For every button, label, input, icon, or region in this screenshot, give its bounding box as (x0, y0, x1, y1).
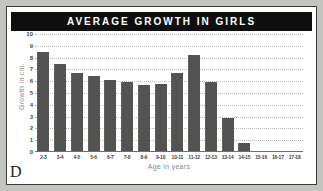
x-tick-label: 5-6 (85, 154, 102, 160)
bar-slot (69, 34, 86, 152)
page-title: AVERAGE GROWTH IN GIRLS (67, 16, 256, 27)
y-axis-ticks: 109876543210 (19, 34, 33, 152)
bar (88, 76, 100, 152)
x-tick-label: 9-10 (152, 154, 169, 160)
figure-panel: AVERAGE GROWTH IN GIRLS Growth in cm. 10… (0, 0, 323, 191)
bar-slot (236, 34, 253, 152)
bar (188, 55, 200, 152)
bar (171, 73, 183, 152)
y-tick-label: 9 (30, 43, 33, 49)
y-tick-label: 10 (26, 31, 33, 37)
bar (138, 85, 150, 152)
x-tick-label: 10-11 (169, 154, 186, 160)
y-tick-label: 1 (30, 137, 33, 143)
bar-slot (102, 34, 119, 152)
bar-slot (219, 34, 236, 152)
bar (121, 82, 133, 152)
bar-slot (203, 34, 220, 152)
bar (37, 52, 49, 152)
bar-slot (85, 34, 102, 152)
bar (104, 80, 116, 152)
bar-slot (52, 34, 69, 152)
x-tick-label: 13-14 (219, 154, 236, 160)
y-tick-label: 7 (30, 66, 33, 72)
x-tick-label: 11-12 (186, 154, 203, 160)
x-axis-ticks: 2-33-44-55-66-77-88-99-1010-1111-1212-13… (35, 154, 303, 160)
bar-slot (286, 34, 303, 152)
chart-title-banner: AVERAGE GROWTH IN GIRLS (11, 12, 312, 31)
x-tick-label: 17-18 (286, 154, 303, 160)
bar-slot (186, 34, 203, 152)
bar-slot (270, 34, 287, 152)
bar-slot (169, 34, 186, 152)
x-tick-label: 15-16 (253, 154, 270, 160)
y-tick-label: 5 (30, 90, 33, 96)
bar (71, 73, 83, 152)
bar (205, 82, 217, 152)
bar-slot (35, 34, 52, 152)
x-tick-label: 8-9 (136, 154, 153, 160)
bar-slot (119, 34, 136, 152)
y-tick-label: 3 (30, 114, 33, 120)
x-tick-label: 3-4 (52, 154, 69, 160)
y-tick-label: 0 (30, 149, 33, 155)
x-tick-label: 4-5 (69, 154, 86, 160)
panel-letter: D (10, 164, 22, 180)
bar (155, 84, 167, 152)
x-tick-label: 6-7 (102, 154, 119, 160)
bar-slot (136, 34, 153, 152)
x-axis-line (35, 151, 303, 152)
bar (54, 64, 66, 153)
x-axis-label: Age in years (35, 163, 303, 170)
y-tick-label: 6 (30, 78, 33, 84)
axes (35, 34, 303, 152)
x-tick-label: 12-13 (203, 154, 220, 160)
x-tick-label: 16-17 (270, 154, 287, 160)
y-tick-label: 4 (30, 102, 33, 108)
plot-area: Growth in cm. 109876543210 2-33-44-55-66… (11, 31, 312, 180)
x-tick-label: 2-3 (35, 154, 52, 160)
bar (222, 118, 234, 152)
bar-series (35, 34, 303, 152)
bar-slot (253, 34, 270, 152)
y-tick-label: 8 (30, 55, 33, 61)
y-tick-label: 2 (30, 125, 33, 131)
x-tick-label: 7-8 (119, 154, 136, 160)
x-tick-label: 14-15 (236, 154, 253, 160)
bar-slot (152, 34, 169, 152)
